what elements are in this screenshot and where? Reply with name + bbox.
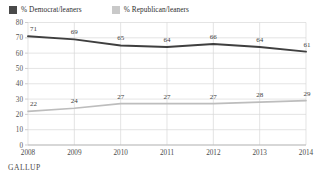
y-tick-labels: 01020304050607080 — [16, 19, 24, 148]
data-label: 27 — [117, 93, 125, 101]
data-label: 29 — [304, 90, 312, 98]
data-label: 65 — [117, 34, 125, 42]
data-label: 27 — [210, 93, 218, 101]
data-label: 64 — [256, 36, 264, 44]
y-tick-label: 70 — [16, 34, 24, 42]
data-label: 64 — [164, 36, 172, 44]
legend-label-republican: % Republican/leaners — [124, 5, 189, 14]
y-tick-label: 0 — [19, 142, 23, 148]
data-label: 27 — [164, 93, 172, 101]
x-tick-label: 2014 — [299, 149, 313, 157]
x-tick-label: 2013 — [252, 149, 266, 157]
x-tick-label: 2008 — [21, 149, 35, 157]
y-tick-label: 10 — [16, 126, 24, 134]
republican-swatch-icon — [112, 6, 120, 14]
data-label: 24 — [71, 97, 79, 105]
y-tick-label: 20 — [16, 111, 24, 119]
data-label: 22 — [30, 100, 38, 108]
legend-label-democrat: % Democrat/leaners — [21, 5, 82, 14]
gallup-line-chart: % Democrat/leaners % Republican/leaners … — [0, 0, 324, 180]
y-tick-label: 30 — [16, 96, 24, 104]
y-tick-label: 40 — [16, 80, 24, 88]
democrat-swatch-icon — [9, 6, 17, 14]
data-label: 61 — [304, 41, 312, 49]
y-tick-label: 50 — [16, 65, 24, 73]
data-label: 71 — [30, 25, 38, 33]
data-label: 69 — [71, 28, 79, 36]
legend-item-republican: % Republican/leaners — [112, 5, 189, 14]
x-tick-label: 2010 — [113, 149, 127, 157]
data-label: 66 — [210, 33, 218, 41]
legend-item-democrat: % Democrat/leaners — [9, 5, 82, 14]
data-label: 28 — [256, 91, 264, 99]
x-tick-label: 2011 — [160, 149, 174, 157]
x-tick-label: 2012 — [206, 149, 220, 157]
y-tick-label: 60 — [16, 50, 24, 58]
source-attribution: GALLUP — [8, 163, 41, 172]
y-tick-label: 80 — [16, 19, 24, 27]
x-tick-labels: 2008200920102011201220132014 — [0, 149, 324, 163]
plot-area: 01020304050607080 7169656466646122242727… — [0, 18, 324, 148]
chart-legend: % Democrat/leaners % Republican/leaners — [0, 3, 324, 16]
x-tick-label: 2009 — [67, 149, 81, 157]
plot-svg: 01020304050607080 7169656466646122242727… — [0, 18, 324, 148]
